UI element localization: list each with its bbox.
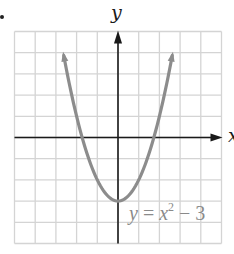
equation-exponent: 2 (168, 200, 174, 214)
equation-rest: − 3 (174, 202, 205, 224)
equation-lhs: y (129, 202, 138, 224)
y-axis-label: y (111, 3, 122, 22)
x-axis-label: x (228, 126, 234, 145)
equation-equals: = (138, 202, 159, 224)
equation-label: y = x2 − 3 (129, 203, 205, 223)
equation-var: x (159, 202, 168, 224)
